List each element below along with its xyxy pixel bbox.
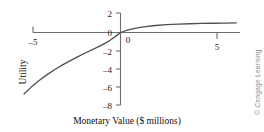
y-tick-label-0: 0 — [108, 28, 113, 38]
y-tick-label-minus2: –2 — [102, 47, 112, 57]
y-tick-label-minus8: –8 — [102, 101, 113, 111]
y-axis-title: Utility — [18, 59, 28, 84]
x-tick-label-zero: 0 — [126, 35, 131, 45]
y-tick-label-2: 2 — [108, 9, 113, 19]
credit-area: © Cengage Learning — [252, 36, 262, 128]
y-tick-label-minus6: –6 — [102, 83, 113, 93]
x-tick-label-minus5: –5 — [28, 37, 39, 47]
utility-curve — [24, 23, 236, 94]
utility-chart-svg: 2 0 –2 –4 –6 –8 –5 0 5 Monetary Value ($… — [0, 0, 264, 132]
y-tick-label-minus4: –4 — [102, 65, 113, 75]
utility-function-figure: 2 0 –2 –4 –6 –8 –5 0 5 Monetary Value ($… — [0, 0, 264, 132]
x-axis-title: Monetary Value ($ millions) — [73, 116, 181, 127]
x-tick-label-five: 5 — [215, 42, 220, 52]
copyright-credit: © Cengage Learning — [254, 49, 261, 114]
